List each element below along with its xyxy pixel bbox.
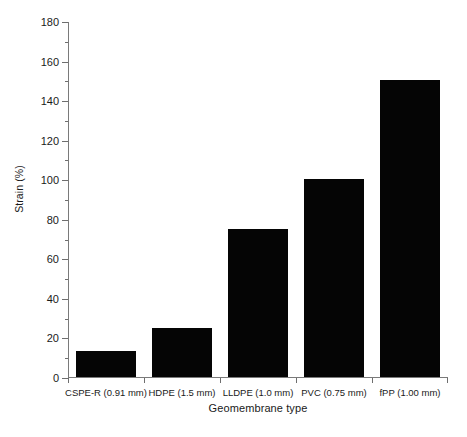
bar-chart-figure: Strain (%) 020406080100120140160180 CSPE… bbox=[0, 0, 467, 437]
y-axis-tick-label: 180 bbox=[41, 16, 59, 28]
y-axis-minor-tick bbox=[65, 160, 69, 161]
y-axis-minor-tick bbox=[65, 358, 69, 359]
x-axis-tick-label: HDPE (1.5 mm) bbox=[148, 387, 215, 398]
y-axis-major-tick bbox=[62, 101, 68, 102]
y-axis-tick-label: 160 bbox=[41, 56, 59, 68]
y-axis-minor-tick bbox=[65, 121, 69, 122]
y-axis-major-tick bbox=[62, 338, 68, 339]
y-axis-tick-label: 60 bbox=[47, 253, 59, 265]
bar bbox=[380, 80, 441, 377]
x-axis-tick bbox=[447, 378, 448, 383]
y-axis-major-tick bbox=[62, 299, 68, 300]
plot-area: 020406080100120140160180 CSPE-R (0.91 mm… bbox=[68, 22, 448, 378]
y-axis-tick-label: 140 bbox=[41, 95, 59, 107]
x-axis-tick bbox=[68, 378, 69, 383]
y-axis-minor-tick bbox=[65, 42, 69, 43]
x-axis-tick bbox=[296, 378, 297, 383]
y-axis-tick-label: 100 bbox=[41, 174, 59, 186]
y-axis-line bbox=[68, 22, 69, 378]
y-axis-tick-label: 0 bbox=[53, 372, 59, 384]
y-axis-minor-tick bbox=[65, 279, 69, 280]
y-axis-major-tick bbox=[62, 259, 68, 260]
y-axis-major-tick bbox=[62, 141, 68, 142]
y-axis-major-tick bbox=[62, 22, 68, 23]
y-axis-tick-label: 80 bbox=[47, 214, 59, 226]
y-axis-title: Strain (%) bbox=[10, 0, 28, 378]
bar bbox=[228, 229, 289, 377]
x-axis-tick bbox=[220, 378, 221, 383]
y-axis-tick-label: 40 bbox=[47, 293, 59, 305]
y-axis-title-text: Strain (%) bbox=[13, 165, 25, 213]
bar bbox=[76, 351, 137, 377]
bar bbox=[152, 328, 213, 377]
y-axis-major-tick bbox=[62, 180, 68, 181]
y-axis-major-tick bbox=[62, 220, 68, 221]
y-axis-minor-tick bbox=[65, 200, 69, 201]
x-axis-tick-label: fPP (1.00 mm) bbox=[379, 387, 440, 398]
x-axis-tick bbox=[144, 378, 145, 383]
bar bbox=[304, 179, 365, 377]
y-axis-minor-tick bbox=[65, 240, 69, 241]
x-axis-title: Geomembrane type bbox=[68, 402, 448, 414]
y-axis-tick-label: 20 bbox=[47, 332, 59, 344]
x-axis-tick-label: LLDPE (1.0 mm) bbox=[223, 387, 294, 398]
y-axis-major-tick bbox=[62, 62, 68, 63]
y-axis-minor-tick bbox=[65, 81, 69, 82]
y-axis-minor-tick bbox=[65, 319, 69, 320]
x-axis-tick bbox=[372, 378, 373, 383]
y-axis-tick-label: 120 bbox=[41, 135, 59, 147]
x-axis-line bbox=[68, 377, 448, 378]
x-axis-tick-label: PVC (0.75 mm) bbox=[301, 387, 366, 398]
x-axis-tick-label: CSPE-R (0.91 mm) bbox=[65, 387, 147, 398]
